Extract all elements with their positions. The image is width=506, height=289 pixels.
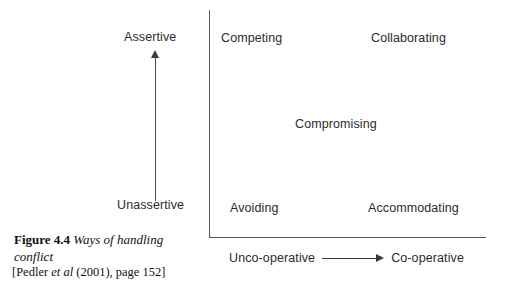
- figure-citation: [Pedler et al (2001), page 152]: [12, 265, 165, 280]
- axis-label-co-operative: Co-operative: [391, 251, 464, 265]
- figure-caption: Figure 4.4 Ways of handling conflict: [14, 232, 194, 265]
- matrix-cell-avoiding: Avoiding: [230, 201, 279, 215]
- citation-et-al: et al: [51, 265, 73, 279]
- matrix-cell-collaborating: Collaborating: [371, 31, 446, 45]
- horizontal-axis-line: [209, 237, 486, 238]
- assertiveness-arrow-shaft: [155, 56, 156, 201]
- matrix-cell-compromising: Compromising: [295, 117, 377, 131]
- figure-caption-number: Figure 4.4: [14, 232, 70, 247]
- citation-suffix: (2001), page 152]: [73, 265, 165, 279]
- matrix-cell-accommodating: Accommodating: [368, 201, 459, 215]
- axis-label-assertive: Assertive: [124, 30, 176, 44]
- axis-label-unassertive: Unassertive: [117, 198, 184, 212]
- axis-label-unco-operative: Unco-operative: [229, 251, 315, 265]
- matrix-cell-competing: Competing: [221, 31, 282, 45]
- cooperativeness-scale: Unco-operative Co-operative: [229, 251, 464, 265]
- citation-prefix: [Pedler: [12, 265, 51, 279]
- vertical-axis-line: [209, 10, 210, 238]
- figure-container: Assertive Unassertive Competing Collabor…: [0, 0, 506, 289]
- cooperativeness-arrow-right-icon: [322, 253, 384, 263]
